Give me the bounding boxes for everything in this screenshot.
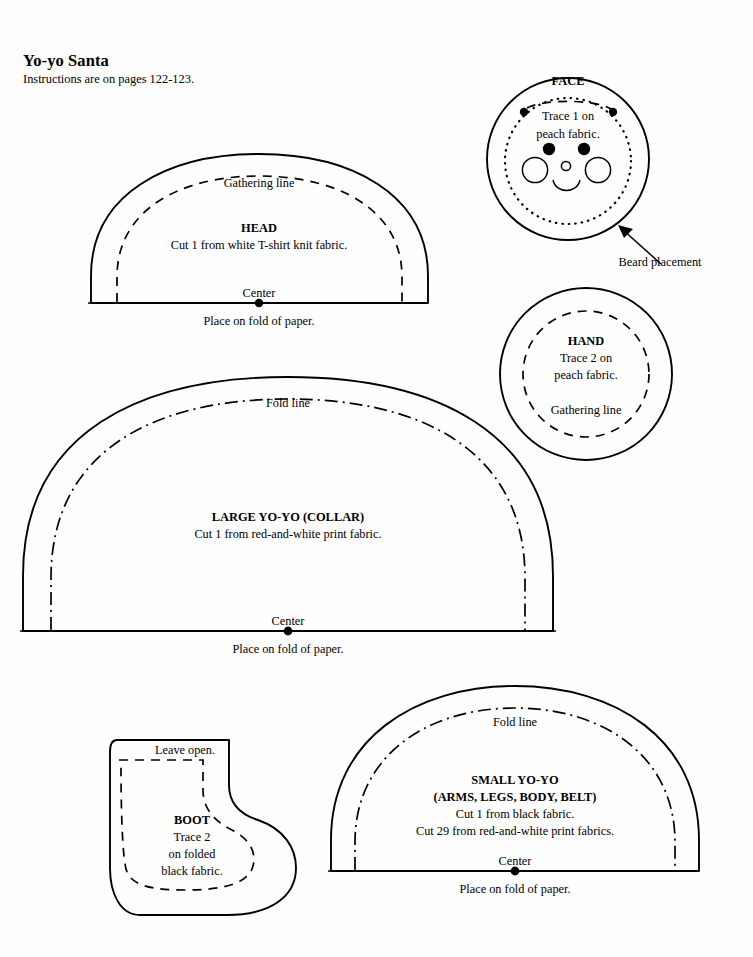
small-yoyo-fold-line — [355, 708, 675, 870]
small-yoyo-instruction-line2: Cut 29 from red-and-white print fabrics. — [416, 824, 614, 838]
hand-title: HAND — [568, 334, 605, 348]
boot-leave-open-label: Leave open. — [155, 743, 215, 757]
pattern-small-yoyo: Fold line SMALL YO-YO (ARMS, LEGS, BODY,… — [328, 686, 702, 896]
small-yoyo-fold-note: Place on fold of paper. — [460, 882, 571, 896]
small-yoyo-center-label: Center — [499, 854, 532, 868]
face-dash-endpoint-right — [609, 108, 617, 116]
pattern-hand: HAND Trace 2 on peach fabric. Gathering … — [500, 288, 672, 460]
head-center-label: Center — [243, 286, 276, 300]
head-fold-note: Place on fold of paper. — [204, 314, 315, 328]
boot-outline — [110, 740, 296, 915]
head-instruction: Cut 1 from white T-shirt knit fabric. — [171, 238, 348, 252]
boot-instruction-line1: Trace 2 — [174, 830, 211, 844]
head-title: HEAD — [241, 221, 277, 235]
large-yoyo-fold-line-label: Fold line — [266, 396, 311, 410]
face-eye-right — [578, 143, 590, 155]
face-eye-left — [543, 143, 555, 155]
small-yoyo-title: SMALL YO-YO — [471, 773, 559, 787]
small-yoyo-subtitle: (ARMS, LEGS, BODY, BELT) — [434, 790, 597, 804]
pattern-sheet-page: Yo-yo Santa Instructions are on pages 12… — [0, 0, 753, 957]
head-center-dot — [255, 299, 263, 307]
boot-title: BOOT — [174, 813, 211, 827]
boot-instruction-line3: black fabric. — [161, 864, 222, 878]
beard-placement-label: Beard placement — [619, 255, 703, 269]
pattern-head: Gathering line HEAD Cut 1 from white T-s… — [88, 154, 431, 328]
face-instruction-line2: peach fabric. — [536, 127, 600, 141]
large-yoyo-center-label: Center — [272, 614, 305, 628]
hand-gathering-label: Gathering line — [551, 403, 622, 417]
face-smile — [553, 180, 580, 191]
face-outline — [487, 78, 649, 240]
hand-instruction-line1: Trace 2 on — [560, 351, 612, 365]
face-nose — [561, 161, 570, 170]
large-yoyo-title: LARGE YO-YO (COLLAR) — [212, 510, 364, 524]
pattern-face: FACE Trace 1 on peach fabric. Beard plac… — [487, 74, 702, 269]
pattern-boot: Leave open. BOOT Trace 2 on folded black… — [110, 740, 296, 915]
small-yoyo-instruction-line1: Cut 1 from black fabric. — [456, 807, 575, 821]
small-yoyo-fold-line-label: Fold line — [493, 715, 538, 729]
large-yoyo-outline — [23, 377, 553, 631]
pattern-large-yoyo: Fold line LARGE YO-YO (COLLAR) Cut 1 fro… — [20, 377, 556, 656]
face-dash-endpoint-left — [520, 108, 528, 116]
large-yoyo-instruction: Cut 1 from red-and-white print fabric. — [194, 527, 381, 541]
boot-instruction-line2: on folded — [169, 847, 216, 861]
hand-instruction-line2: peach fabric. — [554, 368, 618, 382]
face-cheek-left — [522, 157, 547, 182]
face-instruction-line1: Trace 1 on — [542, 109, 594, 123]
pattern-artwork: Gathering line HEAD Cut 1 from white T-s… — [0, 0, 753, 957]
face-cheek-right — [585, 157, 610, 182]
large-yoyo-fold-note: Place on fold of paper. — [233, 642, 344, 656]
face-title: FACE — [552, 74, 585, 88]
